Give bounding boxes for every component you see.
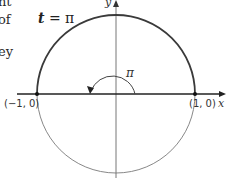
- y-axis-arrow-icon: [113, 0, 119, 7]
- t-equals-pi-label: t = π: [38, 10, 74, 26]
- angle-pi-label: π: [126, 66, 134, 80]
- left-point-label: (−1, 0): [4, 98, 39, 109]
- y-axis-label: y: [105, 0, 111, 9]
- unit-circle-diagram: [0, 0, 233, 178]
- point-right: [193, 92, 197, 96]
- point-left: [35, 92, 39, 96]
- right-point-label: (1, 0): [189, 98, 216, 109]
- x-axis-label: x: [218, 97, 224, 110]
